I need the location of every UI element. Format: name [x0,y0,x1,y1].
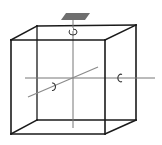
diagonal-axis [28,67,98,97]
cube-rotation-diagram [0,0,162,145]
top-plate [61,13,90,20]
